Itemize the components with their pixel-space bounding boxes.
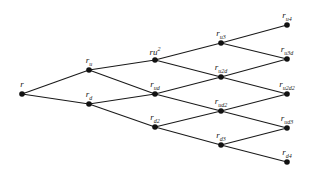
- tree-node-dot: [152, 91, 158, 97]
- tree-nodes: [19, 22, 290, 165]
- tree-node-dot: [86, 101, 92, 107]
- tree-edge: [221, 77, 287, 94]
- tree-edge: [155, 60, 221, 77]
- node-label: rd3: [216, 131, 226, 142]
- tree-edge: [22, 94, 89, 104]
- tree-edge: [89, 70, 155, 94]
- node-label-subscript: d2: [154, 118, 160, 124]
- tree-node-dot: [218, 108, 224, 114]
- node-label: rud2: [215, 97, 228, 108]
- node-label: ru4: [282, 11, 292, 22]
- node-label-subscript: u2d2: [283, 85, 295, 91]
- tree-edge: [221, 128, 287, 145]
- tree-edge: [89, 60, 155, 70]
- tree-edge: [89, 94, 155, 104]
- node-label-subscript: ud2: [218, 102, 227, 108]
- tree-edge: [89, 104, 155, 127]
- tree-edge: [221, 25, 287, 43]
- node-label-subscript: d3: [220, 136, 226, 142]
- node-label: ru2d2: [279, 80, 295, 91]
- node-label: ru2d: [215, 63, 228, 74]
- tree-edge: [22, 70, 89, 94]
- tree-edge: [155, 127, 221, 145]
- tree-node-dot: [152, 57, 158, 63]
- node-label: r: [20, 80, 24, 89]
- node-label: ru: [86, 56, 93, 67]
- tree-node-dot: [218, 142, 224, 148]
- node-label: ru3: [216, 29, 226, 40]
- tree-edge: [221, 111, 287, 128]
- tree-node-dot: [218, 74, 224, 80]
- tree-edge: [221, 94, 287, 111]
- node-label-subscript: ud3: [284, 119, 293, 125]
- node-label: rud: [150, 80, 160, 91]
- node-label-subscript: d: [89, 95, 92, 101]
- node-label-subscript: d4: [286, 153, 292, 159]
- node-label: ru2: [149, 46, 160, 57]
- node-label-subscript: u: [89, 61, 92, 67]
- tree-node-dot: [284, 159, 290, 165]
- node-label: rd2: [150, 113, 160, 124]
- tree-edge: [221, 43, 287, 59]
- tree-edge: [155, 111, 221, 127]
- node-label-subscript: u2d: [218, 68, 227, 74]
- node-label-subscript: u4: [286, 16, 292, 22]
- node-label-base: r: [20, 79, 24, 89]
- tree-edge: [155, 94, 221, 111]
- tree-edge: [155, 43, 221, 60]
- tree-node-dot: [284, 125, 290, 131]
- node-label: rud3: [281, 114, 294, 125]
- tree-node-dot: [284, 91, 290, 97]
- tree-node-dot: [284, 22, 290, 28]
- node-label-base: ru: [149, 47, 157, 57]
- node-label-superscript: 2: [158, 46, 161, 52]
- node-label: rd: [86, 90, 93, 101]
- tree-node-dot: [19, 91, 25, 97]
- node-label-subscript: u3: [220, 34, 226, 40]
- tree-edge: [221, 59, 287, 77]
- tree-node-dot: [218, 40, 224, 46]
- tree-node-dot: [284, 56, 290, 62]
- node-label-subscript: ud: [154, 85, 160, 91]
- tree-node-dot: [152, 124, 158, 130]
- tree-edge: [221, 145, 287, 162]
- node-label: rd4: [282, 148, 292, 159]
- tree-node-dot: [86, 67, 92, 73]
- node-label-subscript: u3d: [284, 50, 293, 56]
- tree-edge: [155, 77, 221, 94]
- node-label: ru3d: [281, 45, 294, 56]
